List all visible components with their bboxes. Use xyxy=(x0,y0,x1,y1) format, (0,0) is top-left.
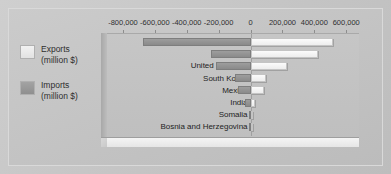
legend-label-imports: Imports (million $) xyxy=(41,80,78,102)
legend-label-imports-line2: (million $) xyxy=(41,91,78,102)
bar-exports xyxy=(251,99,255,107)
bar-row: USA xyxy=(107,36,359,48)
x-axis-tick-label: -800,000 xyxy=(108,18,138,27)
bar-exports xyxy=(251,123,253,131)
bar-exports xyxy=(251,62,288,70)
bar-row: United Kingdom xyxy=(107,60,359,72)
category-label: Somalia xyxy=(219,110,248,119)
chart-legend: Exports (million $) Imports (million $) xyxy=(20,44,100,116)
bar-exports xyxy=(251,86,265,94)
x-axis-tick-label: -400,000 xyxy=(172,18,202,27)
bar-row: India xyxy=(107,97,359,109)
legend-label-exports: Exports (million $) xyxy=(41,44,78,66)
x-axis-tick-label: -600,000 xyxy=(140,18,170,27)
bar-group: USAJapanUnited KingdomSouth KoreaMexicoI… xyxy=(107,34,359,136)
bar-exports xyxy=(251,38,333,46)
bar-imports xyxy=(235,74,250,82)
bar-row: Mexico xyxy=(107,85,359,97)
x-axis-tick-label: 400,000 xyxy=(301,18,328,27)
bar-row: Somalia xyxy=(107,109,359,121)
legend-entry-exports: Exports (million $) xyxy=(20,44,100,66)
legend-label-exports-line2: (million $) xyxy=(41,55,78,66)
legend-entry-imports: Imports (million $) xyxy=(20,80,100,102)
bar-exports xyxy=(251,50,319,58)
bar-imports xyxy=(216,62,250,70)
plot-floor xyxy=(101,137,359,147)
legend-label-imports-line1: Imports xyxy=(41,80,69,90)
category-label: Bosnia and Herzegovina xyxy=(160,122,247,131)
bar-exports xyxy=(251,74,266,82)
bar-row: South Korea xyxy=(107,73,359,85)
bar-imports xyxy=(238,86,251,94)
x-axis-tick-label: 200,000 xyxy=(269,18,296,27)
bar-exports xyxy=(251,111,253,119)
bar-row: Bosnia and Herzegovina xyxy=(107,121,359,133)
x-axis-tick-label: -200,000 xyxy=(204,18,234,27)
bar-imports xyxy=(211,50,251,58)
bar-imports xyxy=(143,38,251,46)
x-axis-tick-label: 0 xyxy=(248,18,252,27)
legend-swatch-imports xyxy=(20,81,35,95)
x-axis-tick-label: 600,000 xyxy=(333,18,360,27)
chart-screenshot: Exports (million $) Imports (million $) … xyxy=(0,0,391,174)
legend-swatch-exports xyxy=(20,45,35,59)
legend-label-exports-line1: Exports xyxy=(41,44,70,54)
bar-row: Japan xyxy=(107,48,359,60)
x-axis: -800,000-600,000-400,000-200,0000200,000… xyxy=(101,18,359,34)
